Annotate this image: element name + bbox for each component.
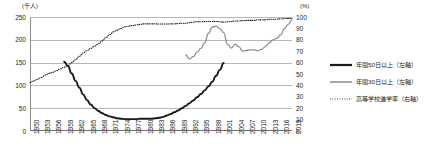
legend-swatch-icon [330,95,352,103]
left-axis-tick: 50 [0,105,26,112]
right-axis-tick: 80 [296,36,314,43]
right-axis-tick: 100 [296,14,314,21]
x-axis-tick: 2019 [295,120,302,134]
left-axis-unit-label: (千人) [22,2,38,10]
legend-swatch-icon [330,78,352,86]
right-axis-tick: 90 [296,25,314,32]
left-axis-tick: 0 [0,128,26,135]
series-line-3 [30,18,292,82]
plot-area [30,17,292,131]
series-line-2 [186,20,292,59]
legend-item-2[interactable]: 年間30日以上（左軸） [330,73,430,90]
right-axis-tick: 70 [296,48,314,55]
right-axis-tick: 40 [296,82,314,89]
right-axis-tick: 30 [296,93,314,100]
legend-item-3[interactable]: 高等学校進学率（右軸） [330,90,430,107]
right-axis-unit-label: (%) [300,2,309,10]
right-axis-tick: 60 [296,59,314,66]
legend-swatch-icon [330,61,352,69]
left-axis-tick: 150 [0,59,26,66]
legend-label: 高等学校進学率（右軸） [356,95,422,103]
left-axis-tick: 250 [0,14,26,21]
chart-container: (千人) (%) 250200150100500 100908070605040… [0,0,432,166]
series-line-1 [64,62,223,119]
right-axis-tick: 50 [296,71,314,78]
left-axis-tick: 100 [0,82,26,89]
chart-legend: 年間50日以上（左軸）年間30日以上（左軸）高等学校進学率（右軸） [330,56,430,107]
legend-item-1[interactable]: 年間50日以上（左軸） [330,56,430,73]
left-axis-tick: 200 [0,36,26,43]
legend-label: 年間30日以上（左軸） [356,78,417,86]
series-lines [30,17,292,131]
right-axis-tick: 20 [296,105,314,112]
legend-label: 年間50日以上（左軸） [356,61,417,69]
